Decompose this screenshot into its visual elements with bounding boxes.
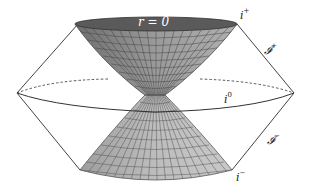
label-base: i [236, 171, 240, 184]
label-base: 𝓘 [264, 44, 271, 57]
label-sup: + [244, 7, 250, 15]
past-timelike-infinity-label: i− [236, 172, 245, 183]
label-sup: 0 [228, 91, 232, 99]
label-base: i [240, 9, 244, 22]
past-null-infinity-label: 𝓘− [267, 135, 280, 146]
singularity-label: r = 0 [138, 16, 169, 28]
future-timelike-infinity-label: i+ [240, 10, 249, 21]
label-sup: − [240, 169, 246, 177]
label-sup: + [271, 42, 277, 50]
spatial-infinity-label: i0 [224, 94, 232, 105]
label-sup: − [274, 132, 280, 140]
label-base: i [224, 93, 228, 106]
label-base: 𝓘 [267, 134, 274, 147]
singularity-label-text: r = 0 [138, 15, 169, 29]
future-null-infinity-label: 𝓘+ [264, 45, 277, 56]
